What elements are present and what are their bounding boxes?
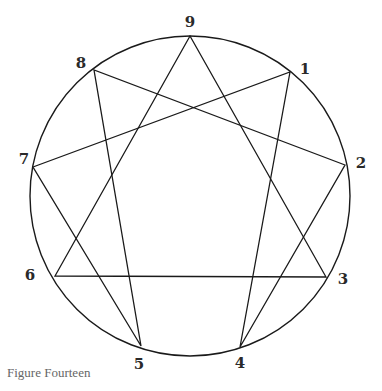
figure-caption: Figure Fourteen xyxy=(7,365,90,381)
point-label-7: 7 xyxy=(19,150,29,168)
point-label-3: 3 xyxy=(338,270,348,288)
outer-circle xyxy=(30,36,350,356)
enneagram-diagram: 912345678 xyxy=(0,0,382,391)
point-label-8: 8 xyxy=(76,54,86,72)
point-label-6: 6 xyxy=(25,266,35,284)
point-label-1: 1 xyxy=(300,60,310,78)
hexad-figure xyxy=(33,70,345,347)
point-label-4: 4 xyxy=(235,354,245,372)
inner-triangle xyxy=(55,36,326,277)
point-label-5: 5 xyxy=(134,355,144,373)
point-label-2: 2 xyxy=(356,154,366,172)
point-label-9: 9 xyxy=(185,13,195,31)
